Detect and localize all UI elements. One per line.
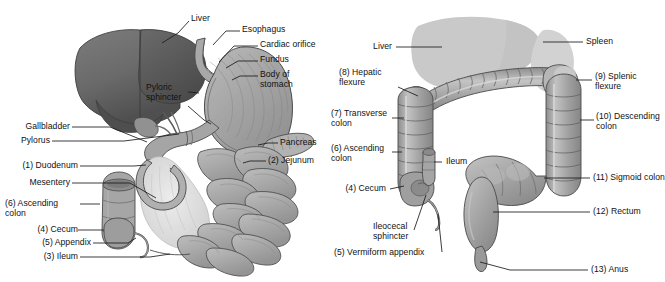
- label-pyloric-sphincter: Pyloric sphincter: [146, 83, 181, 102]
- label-rectum: (12) Rectum: [593, 207, 641, 217]
- appendix-organ: [134, 233, 148, 257]
- label-mesentery: Mesentery: [0, 178, 70, 188]
- label-appendix-left: (5) Appendix: [0, 238, 91, 248]
- vermiform-appendix-right-organ: [428, 200, 439, 230]
- label-cardiac-orifice: Cardiac orifice: [260, 40, 316, 50]
- label-splenic-flexure: (9) Splenic flexure: [595, 72, 637, 91]
- label-transverse-colon: (7) Transverse colon: [331, 109, 387, 128]
- label-ileum-left: (3) Ileum: [0, 252, 78, 262]
- label-body-of-stomach: Body of stomach: [260, 70, 293, 89]
- label-descending-colon: (10) Descending colon: [596, 112, 660, 131]
- label-vermiform-appendix: (5) Vermiform appendix: [334, 248, 424, 258]
- label-pylorus: Pylorus: [0, 136, 50, 146]
- label-cecum-right: (4) Cecum: [330, 184, 386, 194]
- gallbladder-organ: [134, 117, 172, 137]
- label-jejunum: (2) Jejunum: [268, 156, 314, 166]
- label-anus: (13) Anus: [591, 265, 628, 275]
- label-liver-left: Liver: [191, 14, 210, 24]
- label-cecum-left: (4) Cecum: [0, 225, 78, 235]
- label-hepatic-flexure: (8) Hepatic flexure: [339, 68, 382, 87]
- label-liver-right: Liver: [330, 42, 392, 52]
- label-sigmoid-colon: (11) Sigmoid colon: [593, 173, 665, 183]
- label-duodenum: (1) Duodenum: [0, 161, 78, 171]
- label-esophagus: Esophagus: [242, 25, 285, 35]
- label-gallbladder: Gallbladder: [0, 122, 70, 132]
- cecum-organ: [104, 218, 134, 248]
- rectum-organ: [464, 177, 498, 252]
- label-ileum-right: Ileum: [446, 157, 467, 167]
- ileum-right-organ: [422, 149, 435, 186]
- label-ascending-colon-right: (6) Ascending colon: [331, 144, 384, 163]
- label-spleen: Spleen: [586, 37, 613, 47]
- left-diagram-panel: Liver Esophagus Cardiac orifice Fundus B…: [0, 0, 330, 282]
- label-ascending-colon-left: (6) Ascending colon: [5, 199, 58, 218]
- right-diagram-panel: Liver Spleen (8) Hepatic flexure (9) Spl…: [330, 0, 656, 282]
- label-pancreas: Pancreas: [280, 138, 317, 148]
- liver-organ: [75, 30, 206, 141]
- label-fundus: Fundus: [260, 55, 289, 65]
- label-ileocecal-sphincter: Ileocecal sphincter: [373, 222, 408, 241]
